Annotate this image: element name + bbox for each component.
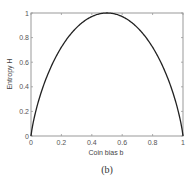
axes-frame — [31, 13, 183, 136]
plot-area — [31, 13, 183, 136]
entropy-chart: 00.20.40.60.8100.20.40.60.81 Coin bias b… — [0, 0, 192, 178]
y-tick-label: 1 — [25, 10, 29, 17]
y-tick-label: 0.4 — [19, 83, 29, 90]
x-tick-label: 0.6 — [117, 139, 127, 146]
x-tick-label: 0.2 — [57, 139, 67, 146]
x-tick-label: 0.8 — [148, 139, 158, 146]
y-tick-label: 0.2 — [19, 108, 29, 115]
axis-ticks: 00.20.40.60.8100.20.40.60.81 — [19, 10, 185, 147]
x-tick-label: 0 — [29, 139, 33, 146]
entropy-curve — [31, 13, 183, 136]
y-tick-label: 0 — [25, 133, 29, 140]
x-axis-label: Coin bias b — [88, 149, 123, 156]
x-tick-label: 1 — [181, 139, 185, 146]
y-tick-label: 0.8 — [19, 34, 29, 41]
figure-caption: (b) — [101, 164, 113, 176]
y-tick-label: 0.6 — [19, 59, 29, 66]
y-axis-label: Entropy H — [6, 58, 14, 89]
x-tick-label: 0.4 — [87, 139, 97, 146]
